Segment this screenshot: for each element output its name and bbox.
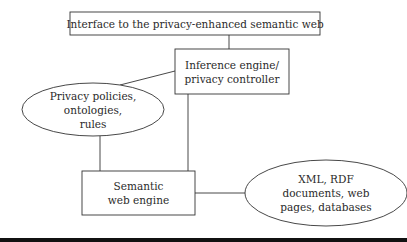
node-inference-label: Inference engine/ privacy controller	[175, 49, 289, 94]
node-sources-label: XML, RDF documents, web pages, databases	[245, 161, 407, 225]
node-semantic-line-1: Semantic	[114, 179, 164, 193]
diagram-canvas: Interface to the privacy-enhanced semant…	[0, 0, 407, 242]
node-semantic-label: Semantic web engine	[82, 171, 195, 215]
node-interface-label: Interface to the privacy-enhanced semant…	[70, 12, 320, 35]
edge-inference-policies	[120, 71, 175, 85]
node-interface-line-1: Interface to the privacy-enhanced semant…	[66, 17, 323, 31]
node-policies-line-2: ontologies,	[64, 103, 122, 117]
node-sources-line-3: pages, databases	[280, 200, 371, 214]
node-policies-line-1: Privacy policies,	[50, 89, 137, 103]
node-policies-label: Privacy policies, ontologies, rules	[22, 84, 164, 135]
node-policies-line-3: rules	[80, 117, 107, 131]
node-sources-line-2: documents, web	[283, 186, 370, 200]
bottom-border-bar	[0, 238, 407, 242]
node-inference-line-1: Inference engine/	[185, 58, 279, 72]
node-inference-line-2: privacy controller	[185, 72, 280, 86]
node-semantic-line-2: web engine	[108, 193, 169, 207]
node-sources-line-1: XML, RDF	[298, 172, 353, 186]
